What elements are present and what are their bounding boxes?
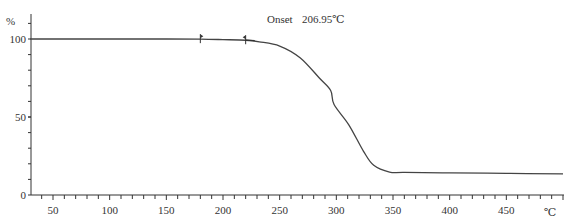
svg-text:300: 300 <box>328 204 345 216</box>
y-unit-label: % <box>6 15 15 27</box>
x-unit-label: ℃ <box>544 206 556 218</box>
onset-value: 206.95℃ <box>302 13 345 25</box>
svg-text:150: 150 <box>158 204 175 216</box>
svg-text:50: 50 <box>48 204 60 216</box>
svg-text:100: 100 <box>10 33 27 45</box>
axes <box>31 14 564 195</box>
tick-labels: 50100150200250300350400450050100 <box>10 33 516 216</box>
weight-curve <box>30 39 563 174</box>
svg-text:50: 50 <box>15 111 27 123</box>
tga-chart: 50100150200250300350400450050100 % ℃ Ons… <box>0 0 572 222</box>
svg-text:450: 450 <box>498 204 515 216</box>
svg-text:100: 100 <box>101 204 118 216</box>
svg-text:400: 400 <box>441 204 458 216</box>
svg-text:250: 250 <box>271 204 288 216</box>
onset-label: Onset <box>267 13 293 25</box>
svg-text:200: 200 <box>215 204 232 216</box>
svg-text:0: 0 <box>21 189 27 201</box>
svg-text:350: 350 <box>385 204 402 216</box>
